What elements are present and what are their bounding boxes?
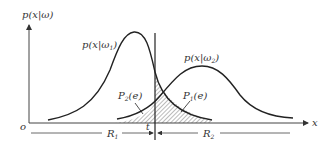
threshold-label: t bbox=[146, 122, 150, 132]
region2-label: R2 bbox=[202, 128, 215, 140]
diagram-canvas: p(x|ω) x o t p(x|ω1) p(x|ω2) P2(e) P1(e)… bbox=[0, 0, 333, 151]
region1-label: R1 bbox=[106, 128, 118, 140]
curve-class-1 bbox=[48, 32, 212, 120]
error2-label: P2(e) bbox=[117, 90, 142, 102]
curve1-label: p(x|ω1) bbox=[82, 39, 117, 51]
y-axis-label: p(x|ω) bbox=[22, 9, 53, 21]
curve2-label: p(x|ω2) bbox=[184, 52, 219, 64]
x-axis-label: x bbox=[312, 117, 318, 128]
origin-label: o bbox=[20, 121, 26, 132]
error1-label: P1(e) bbox=[182, 90, 207, 102]
